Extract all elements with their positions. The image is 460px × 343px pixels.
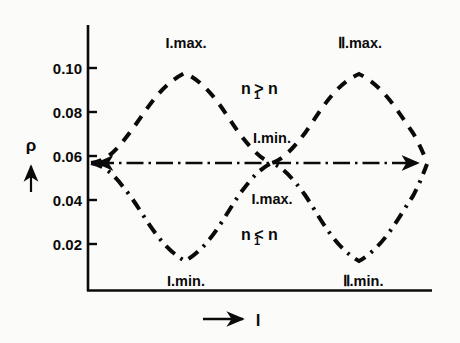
x-axis-title-group: l	[203, 311, 260, 330]
y-tick-marks	[88, 68, 97, 244]
upper-condition-n: n	[241, 80, 251, 97]
label-lower-first-min: I.min.	[167, 273, 205, 289]
label-lower-max: I.max.	[251, 191, 292, 207]
lower-condition-n: n	[241, 226, 251, 243]
y-tick-labels: 0.10 0.08 0.06 0.04 0.02	[53, 60, 83, 253]
x-axis-title: l	[256, 311, 261, 330]
label-upper-condition: n 1 > n	[241, 80, 278, 101]
label-upper-first-max: I.max.	[165, 35, 206, 51]
y-tick-label-0.04: 0.04	[53, 192, 83, 209]
label-lower-second-min: Ⅱ.min.	[343, 273, 384, 289]
upper-condition-relation: > n	[254, 80, 278, 97]
y-axis-title-group: ρ	[26, 136, 37, 192]
y-axis-title: ρ	[26, 136, 37, 155]
y-tick-label-0.08: 0.08	[53, 104, 82, 121]
figure-canvas: 0.10 0.08 0.06 0.04 0.02 ρ l	[0, 0, 460, 343]
y-tick-label-0.10: 0.10	[53, 60, 82, 77]
label-upper-min: I.min.	[253, 130, 291, 146]
y-tick-label-0.02: 0.02	[53, 236, 82, 253]
label-lower-condition: n 1 < n	[241, 226, 278, 247]
label-upper-second-max: Ⅱ.max.	[338, 35, 382, 51]
y-tick-label-0.06: 0.06	[53, 148, 82, 165]
lower-condition-relation: < n	[254, 226, 278, 243]
reflectance-plot: 0.10 0.08 0.06 0.04 0.02 ρ l	[0, 0, 460, 343]
